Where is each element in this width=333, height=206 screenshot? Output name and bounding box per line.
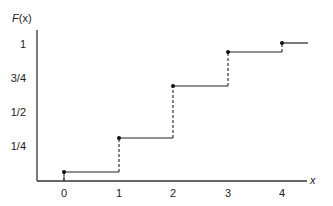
y-tick-label: 1 bbox=[20, 38, 26, 50]
x-tick-label: 3 bbox=[225, 187, 231, 199]
x-tick-label: 2 bbox=[170, 187, 176, 199]
x-tick-label: 4 bbox=[279, 187, 285, 199]
y-tick-label: 1/2 bbox=[11, 106, 26, 118]
x-axis-label: x bbox=[309, 174, 316, 186]
y-tick-label: 3/4 bbox=[11, 72, 26, 84]
x-tick-label: 1 bbox=[116, 187, 122, 199]
y-tick-label: 1/4 bbox=[11, 140, 26, 152]
step-segments bbox=[64, 43, 308, 172]
y-axis-label: F(x) bbox=[12, 12, 32, 24]
step-chart: F(x) x 1 3/4 1/2 1/4 0 1 2 3 4 bbox=[0, 0, 333, 206]
x-tick-label: 0 bbox=[61, 187, 67, 199]
jump-dashes bbox=[64, 43, 282, 181]
